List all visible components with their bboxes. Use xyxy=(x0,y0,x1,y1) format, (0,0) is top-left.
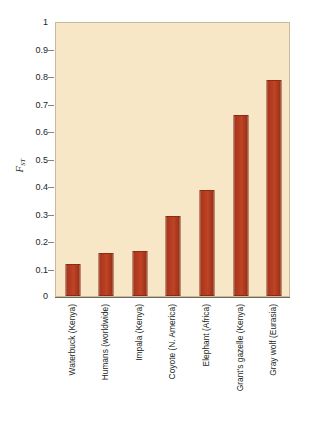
x-axis-tick-label: Gray wolf (Eurasia) xyxy=(256,300,290,426)
x-axis-tick-label: Grant's gazelle (Kenya) xyxy=(223,300,257,426)
x-axis-tick-label-text: Coyote (N. America) xyxy=(168,304,177,379)
y-axis-tick-label: 0.6 xyxy=(35,126,48,138)
bar-series xyxy=(56,23,289,296)
x-axis-tick-label: Coyote (N. America) xyxy=(156,300,190,426)
y-axis-zero-label: 0 xyxy=(22,291,48,301)
y-axis-tick-mark xyxy=(48,105,54,106)
bar[interactable] xyxy=(65,264,80,296)
y-axis-tick-label: 0.8 xyxy=(35,71,48,83)
y-axis-tick-label: 1 xyxy=(43,16,48,28)
x-axis-tick-label-text: Elephant (Africa) xyxy=(202,304,211,366)
bar[interactable] xyxy=(233,115,248,297)
y-axis-tick-label: 0.5 xyxy=(35,154,48,166)
x-axis-tick-label: Humans (worldwide) xyxy=(89,300,123,426)
y-axis-tick-mark xyxy=(48,270,54,271)
y-axis-tick-mark xyxy=(48,77,54,78)
bar-slot xyxy=(157,23,191,296)
bar[interactable] xyxy=(200,190,215,296)
bar-slot xyxy=(123,23,157,296)
x-axis-tick-label-text: Grant's gazelle (Kenya) xyxy=(235,304,244,391)
y-axis-tick-mark xyxy=(48,50,54,51)
bar[interactable] xyxy=(166,216,181,296)
y-axis-tick-mark xyxy=(48,132,54,133)
bar-slot xyxy=(190,23,224,296)
x-axis-tick-label: Waterbuck (Kenya) xyxy=(55,300,89,426)
y-axis-tick-mark xyxy=(48,187,54,188)
y-axis-tick-label: 0.2 xyxy=(35,236,48,248)
y-axis-tick-label: 0.4 xyxy=(35,181,48,193)
bar[interactable] xyxy=(132,251,147,296)
x-axis-line xyxy=(55,297,290,298)
x-axis-tick-label-text: Waterbuck (Kenya) xyxy=(67,304,76,375)
plot-area xyxy=(55,22,290,297)
bar-slot xyxy=(56,23,90,296)
bar-slot xyxy=(224,23,258,296)
bar-slot xyxy=(90,23,124,296)
y-axis-tick-label: 0.9 xyxy=(35,44,48,56)
x-axis-tick-label-text: Gray wolf (Eurasia) xyxy=(269,304,278,376)
x-axis-tick-label-text: Impala (Kenya) xyxy=(134,304,143,361)
bar-slot xyxy=(257,23,291,296)
y-axis-tick-mark xyxy=(48,160,54,161)
x-axis-tick-label-text: Humans (worldwide) xyxy=(101,304,110,380)
fst-bar-chart-figure: FST 10.90.80.70.60.50.40.30.20.1 0 Water… xyxy=(0,0,309,429)
x-axis-tick-label: Elephant (Africa) xyxy=(189,300,223,426)
x-axis-tick-label: Impala (Kenya) xyxy=(122,300,156,426)
y-axis-tick-label: 0.1 xyxy=(35,264,48,276)
y-axis-tick-label: 0.7 xyxy=(35,99,48,111)
y-axis-tick-mark xyxy=(48,242,54,243)
y-axis-tick-labels: 10.90.80.70.60.50.40.30.20.1 xyxy=(22,0,48,429)
bar[interactable] xyxy=(99,253,114,296)
y-axis-tick-mark xyxy=(48,215,54,216)
bar[interactable] xyxy=(267,80,282,296)
y-axis-tick-label: 0.3 xyxy=(35,209,48,221)
x-axis-tick-labels: Waterbuck (Kenya)Humans (worldwide)Impal… xyxy=(55,300,290,426)
